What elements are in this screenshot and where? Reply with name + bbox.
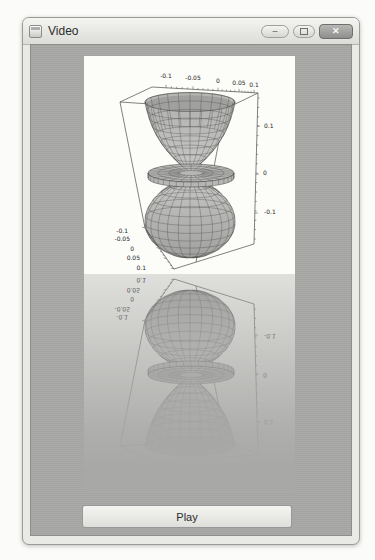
minimize-button[interactable]: – — [261, 25, 289, 38]
video-window: Video – ✕ -0.1 -0.05 0 0.05 0.1 -0.1 -0.… — [22, 17, 360, 545]
y-tick-label: 0 — [110, 246, 134, 252]
z-tick-label: 0 — [263, 170, 279, 176]
video-widget-content: -0.1 -0.05 0 0.05 0.1 -0.1 -0.05 0 0.05 … — [30, 44, 352, 536]
window-controls: – ✕ — [261, 24, 353, 39]
maximize-icon — [300, 28, 308, 35]
reflection-fade-overlay — [84, 274, 295, 492]
x-tick-label: -0.05 — [183, 75, 203, 81]
window-title: Video — [48, 24, 78, 38]
plot-panel: -0.1 -0.05 0 0.05 0.1 -0.1 -0.05 0 0.05 … — [84, 56, 295, 274]
y-tick-label: 0.1 — [122, 265, 146, 271]
play-button[interactable]: Play — [82, 505, 292, 528]
x-tick-label: 0 — [208, 78, 228, 84]
close-icon: ✕ — [332, 27, 340, 36]
z-tick-label: 0.1 — [264, 123, 280, 129]
plot-reflection: -0.1 -0.05 0 0.05 0.1 -0.1 -0.05 0 0.05 … — [84, 274, 295, 492]
maximize-button[interactable] — [293, 25, 315, 38]
minimize-icon: – — [272, 27, 277, 36]
x-tick-label: -0.1 — [156, 73, 176, 79]
y-tick-label: -0.1 — [104, 228, 128, 234]
y-tick-label: -0.05 — [106, 236, 130, 242]
y-tick-label: 0.05 — [116, 255, 140, 261]
application-icon — [29, 25, 42, 38]
titlebar[interactable]: Video – ✕ — [23, 18, 359, 45]
close-button[interactable]: ✕ — [319, 24, 353, 39]
z-tick-label: -0.1 — [264, 209, 280, 215]
x-tick-label: 0.1 — [244, 82, 264, 88]
